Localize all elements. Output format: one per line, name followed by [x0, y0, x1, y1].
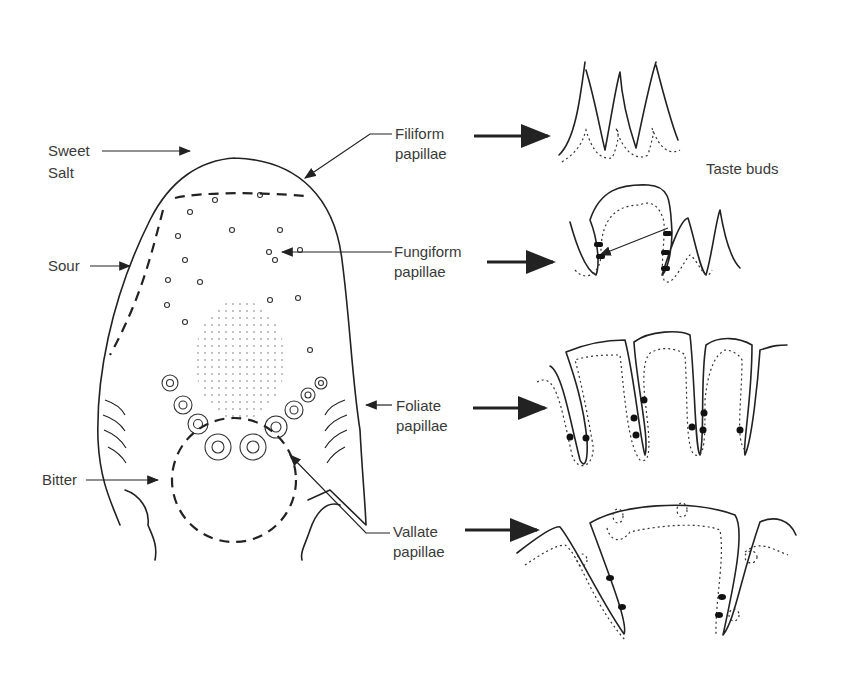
label-filiform-line2: papillae: [395, 144, 447, 164]
label-fungiform-line1: Fungiform: [394, 242, 462, 262]
foliate-cross-section: [537, 332, 787, 466]
label-filiform: Filiform papillae: [395, 124, 447, 164]
vallate-cross-section: [517, 503, 796, 640]
label-arrows: [86, 134, 668, 533]
label-foliate-line2: papillae: [396, 416, 448, 436]
label-sour: Sour: [48, 256, 80, 276]
filiform-cross-section: [559, 62, 680, 162]
label-sweet: Sweet: [48, 141, 90, 161]
label-filiform-line1: Filiform: [395, 124, 447, 144]
tongue-diagram: [0, 0, 846, 682]
label-vallate: Vallate papillae: [393, 522, 445, 562]
label-vallate-line1: Vallate: [393, 522, 445, 542]
label-vallate-line2: papillae: [393, 542, 445, 562]
tongue-illustration: [98, 158, 366, 560]
label-bitter: Bitter: [42, 470, 77, 490]
label-taste-buds: Taste buds: [706, 159, 779, 179]
label-fungiform-line2: papillae: [394, 262, 462, 282]
label-foliate-line1: Foliate: [396, 396, 448, 416]
label-foliate: Foliate papillae: [396, 396, 448, 436]
label-salt: Salt: [48, 163, 74, 183]
label-fungiform: Fungiform papillae: [394, 242, 462, 282]
